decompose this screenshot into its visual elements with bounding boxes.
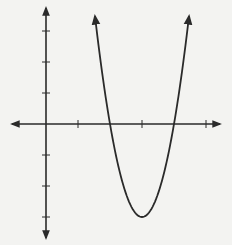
parabola-curve bbox=[95, 16, 189, 217]
coordinate-plane bbox=[0, 0, 232, 245]
